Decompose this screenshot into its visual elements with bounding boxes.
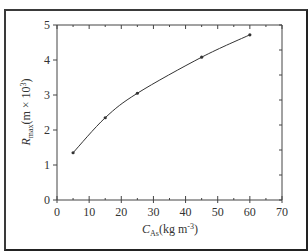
x-tick-label: 20: [115, 205, 127, 219]
data-point: [136, 92, 139, 95]
y-tick-label: 4: [44, 53, 50, 67]
x-tick-label: 50: [212, 205, 224, 219]
x-tick-label: 0: [54, 205, 60, 219]
x-axis-label: CAs(kg m-3): [142, 222, 198, 238]
y-tick-label: 0: [44, 193, 50, 207]
data-point: [248, 33, 251, 36]
x-tick-label: 60: [244, 205, 256, 219]
data-point: [200, 56, 203, 59]
data-point: [71, 151, 74, 154]
x-tick-label: 10: [83, 205, 95, 219]
y-tick-label: 3: [44, 88, 50, 102]
y-tick-label: 5: [44, 18, 50, 32]
y-tick-label: 1: [44, 158, 50, 172]
x-tick-label: 40: [180, 205, 192, 219]
data-series: [71, 33, 251, 154]
plot-axes: [57, 25, 282, 200]
x-tick-label: 70: [276, 205, 288, 219]
data-point: [104, 116, 107, 119]
x-tick-label: 30: [147, 205, 159, 219]
axis-ticks: [53, 25, 282, 203]
series-line: [73, 35, 250, 153]
y-axis-label: Rmax(m × 103): [19, 78, 35, 146]
y-tick-label: 2: [44, 123, 50, 137]
tick-labels: 010203040506070012345: [44, 18, 288, 219]
chart: 010203040506070012345 Rmax(m × 103) CAs(…: [0, 0, 308, 252]
